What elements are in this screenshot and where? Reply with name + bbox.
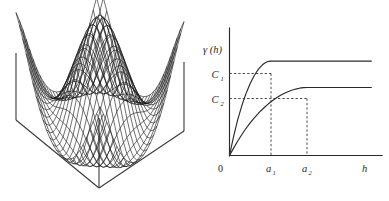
guide-lines xyxy=(230,74,308,156)
a2-label-subscript: 2 xyxy=(309,169,313,176)
x-tick-label-a1: a 1 xyxy=(266,163,276,176)
variogram-svg: γ (h) C 1 C 2 0 a 1 a 2 xyxy=(196,0,389,201)
x-axis-label: h xyxy=(362,163,367,174)
mesh-row-5 xyxy=(83,66,167,167)
y-axis-label: γ (h) xyxy=(203,44,223,56)
y-tick-label-c1: C 1 xyxy=(212,69,224,82)
a1-label-base: a xyxy=(266,163,271,174)
wireframe-mesh-surface xyxy=(16,0,184,168)
variogram-curves xyxy=(230,61,372,155)
c2-label-subscript: 2 xyxy=(221,100,225,107)
origin-label: 0 xyxy=(218,163,223,174)
curve-model-1 xyxy=(230,61,372,155)
c1-label-base: C xyxy=(212,69,220,80)
a1-label-subscript: 1 xyxy=(273,169,276,176)
surface-plot-panel xyxy=(0,0,196,201)
y-tick-label-c2: C 2 xyxy=(212,94,225,107)
a2-label-base: a xyxy=(302,163,307,174)
mesh-col-12 xyxy=(56,17,140,161)
c2-label-base: C xyxy=(212,94,220,105)
figure-root: γ (h) C 1 C 2 0 a 1 a 2 xyxy=(0,0,389,201)
c1-label-subscript: 1 xyxy=(221,75,224,82)
mesh-col-21 xyxy=(87,36,171,105)
axes xyxy=(230,28,383,156)
x-tick-label-a2: a 2 xyxy=(302,163,313,176)
curve-model-2 xyxy=(230,88,372,156)
3d-surface-svg xyxy=(0,0,196,201)
variogram-plot-panel: γ (h) C 1 C 2 0 a 1 a 2 xyxy=(196,0,389,201)
